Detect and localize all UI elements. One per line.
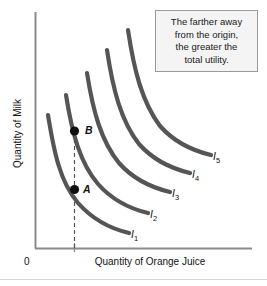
point-b-label: B [85,124,93,136]
callout-line-2: from the origin, [175,29,238,42]
curve-label-i1: I1 [131,228,138,243]
curve-label-i4-sub: 4 [195,174,199,183]
point-b-marker [70,126,79,135]
curve-label-i5: I5 [213,150,220,165]
curve-label-i3-sub: 3 [175,193,179,202]
callout-textbox: The farther away from the origin, the gr… [155,10,258,72]
callout-line-4: total utility. [184,54,228,67]
curve-label-i2-sub: 2 [153,214,157,223]
indifference-curve-figure: The farther away from the origin, the gr… [0,0,267,286]
indifference-curve-i2 [66,95,148,213]
curve-label-i3: I3 [172,187,179,202]
callout-line-3: the greater the [176,41,238,54]
curve-label-i2: I2 [150,208,157,223]
point-a-label: A [83,183,91,195]
callout-line-1: The farther away [171,16,242,29]
indifference-curve-i3 [87,73,170,192]
point-a-marker [70,185,79,194]
origin-label: 0 [24,256,30,267]
bottom-divider [0,279,267,280]
curve-label-i1-sub: 1 [134,234,138,243]
x-axis-label: Quantity of Orange Juice [70,256,230,267]
curve-label-i5-sub: 5 [216,156,220,165]
y-axis-label: Quantity of Milk [12,84,23,184]
curve-label-i4: I4 [192,168,199,183]
